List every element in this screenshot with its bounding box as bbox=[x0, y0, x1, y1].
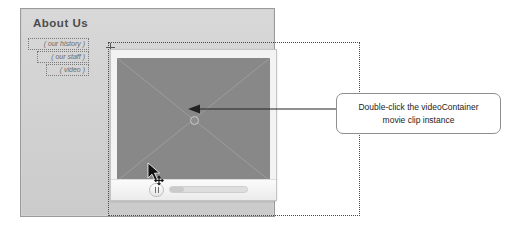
callout-line-2: movie clip instance bbox=[383, 114, 455, 127]
video-controls-bar bbox=[111, 179, 276, 200]
nav-item-our-staff[interactable]: ( our staff ) bbox=[37, 51, 89, 63]
video-container-movieclip[interactable] bbox=[110, 49, 277, 201]
registration-point-icon bbox=[190, 116, 199, 125]
progress-bar-track[interactable] bbox=[169, 186, 248, 193]
video-placeholder-symbol[interactable] bbox=[117, 58, 270, 181]
pause-icon-bar-right bbox=[158, 187, 160, 193]
pause-icon-bar-left bbox=[155, 187, 157, 193]
pause-button[interactable] bbox=[149, 183, 164, 197]
page-title: About Us bbox=[33, 17, 88, 29]
progress-bar-fill bbox=[170, 187, 184, 192]
flash-stage: About Us ( our history ) ( our staff ) (… bbox=[20, 8, 275, 217]
instruction-callout: Double-click the videoContainer movie cl… bbox=[336, 93, 501, 134]
site-navigation: ( our history ) ( our staff ) ( video ) bbox=[28, 38, 90, 77]
nav-item-video[interactable]: ( video ) bbox=[46, 64, 89, 76]
callout-line-1: Double-click the videoContainer bbox=[358, 101, 478, 114]
nav-item-our-history[interactable]: ( our history ) bbox=[28, 38, 89, 50]
